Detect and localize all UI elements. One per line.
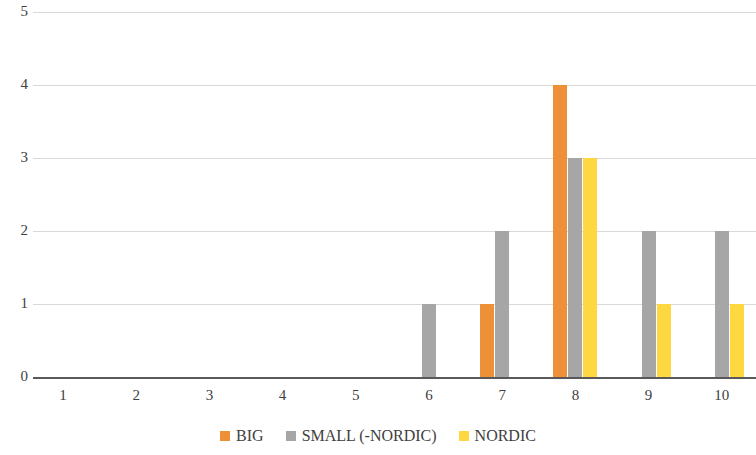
legend-item-label: SMALL (-NORDIC) bbox=[302, 428, 437, 444]
x-axis-tick-label: 7 bbox=[472, 388, 532, 403]
x-axis-tick-label: 1 bbox=[33, 388, 93, 403]
x-axis-tick-label: 4 bbox=[253, 388, 313, 403]
legend-item[interactable]: SMALL (-NORDIC) bbox=[286, 428, 437, 444]
legend-swatch-icon bbox=[220, 431, 230, 441]
x-axis-tick-label: 9 bbox=[619, 388, 679, 403]
x-axis-tick-label: 2 bbox=[106, 388, 166, 403]
bar-chart: 012345 12345678910 BIGSMALL (-NORDIC)NOR… bbox=[0, 0, 756, 455]
legend-item-label: BIG bbox=[236, 428, 264, 444]
legend-item[interactable]: BIG bbox=[220, 428, 264, 444]
legend-swatch-icon bbox=[286, 431, 296, 441]
x-axis: 12345678910 bbox=[0, 0, 756, 455]
x-axis-tick-label: 8 bbox=[545, 388, 605, 403]
legend-item[interactable]: NORDIC bbox=[459, 428, 536, 444]
legend-item-label: NORDIC bbox=[475, 428, 536, 444]
x-axis-tick-label: 5 bbox=[326, 388, 386, 403]
legend-swatch-icon bbox=[459, 431, 469, 441]
x-axis-tick-label: 6 bbox=[399, 388, 459, 403]
x-axis-tick-label: 10 bbox=[692, 388, 752, 403]
x-axis-tick-label: 3 bbox=[179, 388, 239, 403]
chart-legend: BIGSMALL (-NORDIC)NORDIC bbox=[0, 428, 756, 444]
